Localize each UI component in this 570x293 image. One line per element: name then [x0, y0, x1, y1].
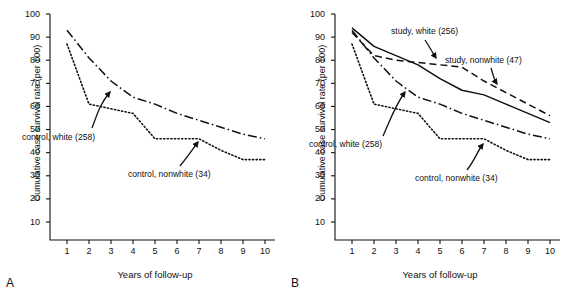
- x-tick-label: 8: [212, 247, 230, 256]
- y-tick-label: 50: [299, 125, 325, 134]
- annotation-arrow: [467, 144, 483, 170]
- y-tick-label: 70: [14, 79, 40, 88]
- y-tick-label: 90: [299, 33, 325, 42]
- x-tick-label: 7: [475, 247, 493, 256]
- y-tick-label: 70: [299, 79, 325, 88]
- annotation-arrow: [92, 92, 110, 128]
- y-tick-label: 100: [14, 10, 40, 19]
- y-tick-label: 60: [14, 102, 40, 111]
- annotation-control_nonwhite: control, nonwhite (34): [415, 174, 498, 183]
- x-tick-label: 3: [102, 247, 120, 256]
- y-tick-label: 40: [299, 148, 325, 157]
- y-tick-label: 100: [299, 10, 325, 19]
- x-tick-label: 10: [541, 247, 559, 256]
- panel-b-plot-area: 10090807060504030201012345678910study, w…: [285, 0, 570, 293]
- x-tick-label: 6: [168, 247, 186, 256]
- x-tick-label: 2: [80, 247, 98, 256]
- annotation-control_white: control, white (258): [309, 140, 382, 149]
- series-line: [67, 44, 265, 160]
- y-tick-label: 30: [299, 171, 325, 180]
- x-tick-label: 5: [146, 247, 164, 256]
- annotation-control_white: control, white (258): [22, 133, 95, 142]
- x-tick-label: 7: [190, 247, 208, 256]
- x-tick-label: 1: [343, 247, 361, 256]
- x-tick-label: 9: [519, 247, 537, 256]
- annotation-study_nonwhite: study, nonwhite (47): [445, 56, 522, 65]
- y-tick-label: 30: [14, 171, 40, 180]
- annotation-study_white: study, white (256): [391, 27, 458, 36]
- x-tick-label: 4: [124, 247, 142, 256]
- panel-a-plot-area: 10090807060504030201012345678910control,…: [0, 0, 285, 293]
- x-tick-label: 2: [365, 247, 383, 256]
- panel-b: Cumulative case survival rate (per 100) …: [285, 0, 570, 293]
- x-tick-label: 3: [387, 247, 405, 256]
- x-tick-label: 6: [453, 247, 471, 256]
- annotation-arrow: [425, 40, 436, 58]
- annotation-arrow: [491, 68, 497, 84]
- x-tick-label: 5: [431, 247, 449, 256]
- y-tick-label: 10: [14, 218, 40, 227]
- y-tick-label: 80: [14, 56, 40, 65]
- figure-survival-curves: Cumulative case survival rate (per 100) …: [0, 0, 570, 293]
- x-tick-label: 1: [58, 247, 76, 256]
- y-tick-label: 60: [299, 102, 325, 111]
- y-tick-label: 40: [14, 148, 40, 157]
- series-line: [67, 30, 265, 139]
- series-line: [352, 32, 550, 115]
- x-tick-label: 9: [234, 247, 252, 256]
- y-tick-label: 20: [299, 194, 325, 203]
- y-tick-label: 20: [14, 194, 40, 203]
- x-tick-label: 8: [497, 247, 515, 256]
- annotation-arrow: [383, 92, 405, 136]
- x-tick-label: 10: [256, 247, 274, 256]
- annotation-control_nonwhite: control, nonwhite (34): [128, 170, 211, 179]
- y-tick-label: 80: [299, 56, 325, 65]
- x-tick-label: 4: [409, 247, 427, 256]
- annotation-arrow: [180, 142, 198, 166]
- y-tick-label: 10: [299, 218, 325, 227]
- panel-a: Cumulative case survival rate (per 100) …: [0, 0, 285, 293]
- y-tick-label: 90: [14, 33, 40, 42]
